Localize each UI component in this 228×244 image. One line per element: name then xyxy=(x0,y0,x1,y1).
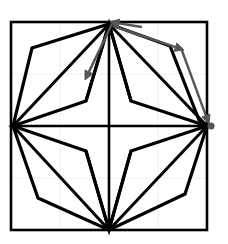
right-vertex-marker xyxy=(207,122,214,129)
vector-figure-canvas xyxy=(0,0,228,244)
figure-container xyxy=(0,0,228,244)
arrow-to-top-vertex-shaft xyxy=(119,23,142,27)
markers-layer xyxy=(207,122,214,129)
